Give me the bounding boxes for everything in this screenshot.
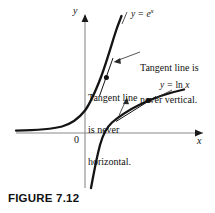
y-axis-label: y — [73, 6, 77, 16]
logarithm-tangent-annotation-line1: Tangent line — [88, 93, 138, 104]
figure-container: y x 0 y = ex y = ln x Tangent line is ne… — [0, 0, 215, 213]
exponential-tangent-annotation: Tangent line is never vertical. — [140, 42, 199, 127]
logarithm-tangent-annotation-line3: horizontal. — [88, 157, 138, 168]
x-axis-label: x — [197, 136, 201, 146]
exponential-tangent-annotation-line1: Tangent line is — [140, 63, 199, 74]
y-axis-arrowhead — [82, 14, 89, 22]
logarithm-tangent-annotation-line2: is never — [88, 125, 138, 136]
exponential-curve-label-exponent: x — [151, 7, 154, 15]
origin-label: 0 — [74, 135, 79, 145]
logarithm-tangent-annotation: Tangent line is never horizontal. — [88, 72, 138, 189]
exponential-label-leader-line — [122, 12, 127, 24]
figure-caption: FIGURE 7.12 — [8, 192, 79, 204]
exponential-curve-label: y = ex — [131, 8, 154, 20]
exponential-tangent-annotation-line2: never vertical. — [140, 95, 199, 106]
exponential-curve-label-lead: y = e — [131, 9, 151, 19]
exponential-note-leader-arrowhead — [114, 58, 121, 64]
